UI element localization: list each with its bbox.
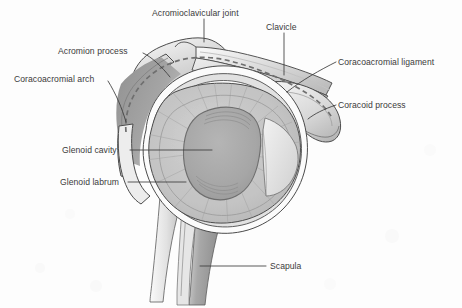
label-clavicle: Clavicle	[266, 22, 297, 32]
label-glenoid-labrum: Glenoid labrum	[60, 177, 119, 187]
label-acromion-process: Acromion process	[58, 46, 128, 56]
shoulder-anatomy-figure: Acromioclavicular joint Clavicle Acromio…	[0, 0, 462, 308]
label-coracoacromial-arch: Coracoacromial arch	[14, 74, 94, 84]
label-coracoacromial-ligament: Coracoacromial ligament	[338, 57, 434, 67]
label-scapula: Scapula	[270, 261, 301, 271]
label-coracoid-process: Coracoid process	[338, 100, 406, 110]
label-acromioclavicular-joint: Acromioclavicular joint	[152, 8, 239, 18]
label-glenoid-cavity: Glenoid cavity	[62, 145, 117, 155]
